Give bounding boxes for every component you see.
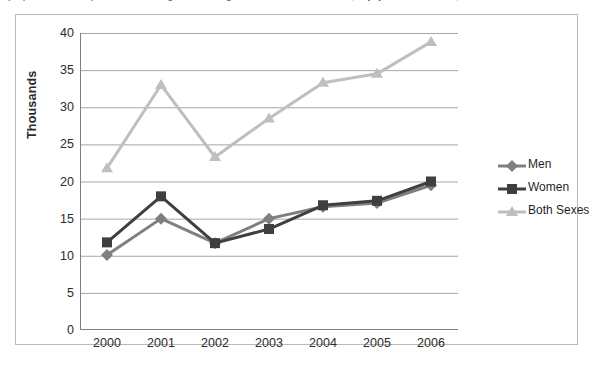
marker-square: [102, 237, 112, 247]
series-men: [101, 179, 437, 261]
y-axis-tick-labels: 4035302520151050: [44, 33, 74, 330]
marker-square: [264, 224, 274, 234]
x-tick-label: 2000: [93, 336, 121, 350]
cropped-caption-text: population of persons living with diagno…: [8, 0, 528, 1]
x-tick-label: 2005: [363, 336, 391, 350]
y-tick-label: 35: [48, 63, 74, 77]
marker-diamond: [263, 213, 275, 225]
x-tick-label: 2004: [309, 336, 337, 350]
series-both-sexes: [101, 36, 437, 172]
x-tick-label: 2006: [417, 336, 445, 350]
marker-triangle: [155, 79, 167, 89]
legend-label: Women: [528, 180, 569, 194]
series-line: [107, 42, 431, 168]
y-tick-label: 30: [48, 100, 74, 114]
x-axis-tick-labels: 2000200120022003200420052006: [80, 336, 458, 354]
marker-square: [156, 191, 166, 201]
legend-swatch-triangle-icon: [497, 204, 527, 216]
marker-square: [210, 238, 220, 248]
marker-diamond: [506, 160, 518, 172]
marker-square: [318, 200, 328, 210]
legend-label: Both Sexes: [528, 203, 589, 217]
legend-item-men[interactable]: Men: [497, 152, 575, 175]
series-women: [102, 177, 436, 249]
y-axis-title: Thousands: [22, 40, 42, 170]
legend-swatch-diamond-icon: [497, 158, 527, 170]
chart-svg: [80, 33, 458, 330]
chart-legend: MenWomenBoth Sexes: [497, 152, 575, 221]
marker-triangle: [425, 36, 437, 46]
marker-square: [507, 184, 517, 194]
y-tick-label: 25: [48, 137, 74, 151]
plot-area: [80, 33, 458, 330]
y-tick-label: 40: [48, 26, 74, 40]
y-tick-label: 5: [48, 286, 74, 300]
marker-square: [372, 196, 382, 206]
x-tick-label: 2002: [201, 336, 229, 350]
y-tick-label: 15: [48, 212, 74, 226]
gridlines: [80, 34, 458, 331]
x-tick-label: 2001: [147, 336, 175, 350]
y-tick-label: 10: [48, 249, 74, 263]
legend-label: Men: [528, 157, 551, 171]
cropped-caption-sliver: population of persons living with diagno…: [0, 0, 594, 8]
legend-swatch-square-icon: [497, 181, 527, 193]
legend-item-women[interactable]: Women: [497, 175, 575, 198]
y-tick-label: 0: [48, 323, 74, 337]
marker-square: [426, 177, 436, 187]
legend-item-both-sexes[interactable]: Both Sexes: [497, 198, 575, 221]
y-tick-label: 20: [48, 175, 74, 189]
x-tick-label: 2003: [255, 336, 283, 350]
